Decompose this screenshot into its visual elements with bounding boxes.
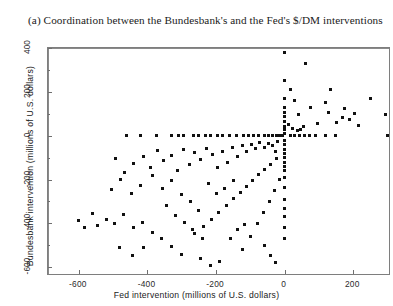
y-tick-mark: [48, 180, 52, 181]
data-point: [216, 134, 219, 137]
x-tick-label: 0: [281, 279, 286, 289]
data-point: [151, 174, 154, 177]
data-point: [283, 165, 286, 168]
data-point: [329, 88, 332, 91]
data-point: [287, 123, 290, 126]
data-point: [236, 228, 239, 231]
data-point: [197, 134, 200, 137]
data-point: [274, 261, 277, 264]
data-point: [142, 155, 145, 158]
data-point: [283, 148, 286, 151]
data-point: [96, 224, 99, 227]
data-point: [210, 218, 213, 221]
data-point: [283, 106, 286, 109]
data-point: [314, 134, 317, 137]
data-point: [236, 155, 239, 158]
x-tick-mark: [216, 270, 217, 274]
data-point: [91, 212, 94, 215]
data-point: [256, 222, 259, 225]
y-tick-mark: [48, 136, 52, 137]
data-point: [291, 127, 294, 130]
data-point: [201, 237, 204, 240]
data-point: [170, 179, 173, 182]
y-minor-tick-mark: [48, 158, 50, 159]
data-point: [105, 218, 108, 221]
zero-line-horizontal: [48, 48, 389, 49]
data-point: [273, 189, 276, 192]
data-point: [180, 193, 183, 196]
data-point: [223, 187, 226, 190]
data-point: [283, 226, 286, 229]
data-point: [239, 191, 242, 194]
data-point: [215, 192, 218, 195]
data-point: [289, 134, 292, 137]
data-point: [293, 134, 296, 137]
data-point: [113, 222, 116, 225]
x-tick-mark: [285, 270, 286, 274]
data-point: [303, 134, 306, 137]
data-point: [276, 140, 279, 143]
data-point: [283, 156, 286, 159]
data-point: [151, 231, 154, 234]
y-tick-mark: [48, 92, 52, 93]
data-point: [205, 147, 208, 150]
data-point: [384, 113, 387, 116]
x-tick-mark: [79, 270, 80, 274]
data-point: [132, 162, 135, 165]
data-point: [176, 169, 179, 172]
figure-panel: (a) Coordination between the Bundesbank'…: [0, 0, 393, 306]
data-point: [218, 260, 221, 263]
data-point: [343, 107, 346, 110]
data-point: [182, 134, 185, 137]
data-point: [242, 134, 245, 137]
data-point: [231, 146, 234, 149]
data-point: [299, 128, 302, 131]
data-point: [221, 134, 224, 137]
data-point: [258, 141, 261, 144]
data-point: [177, 134, 180, 137]
data-point: [283, 51, 286, 54]
data-point: [149, 166, 152, 169]
data-point: [283, 215, 286, 218]
data-point: [209, 264, 212, 267]
data-point: [267, 134, 270, 137]
data-point: [174, 214, 177, 217]
data-point: [165, 204, 168, 207]
x-tick-label: -600: [69, 279, 87, 289]
data-point: [304, 62, 307, 65]
data-point: [262, 211, 265, 214]
data-point: [211, 153, 214, 156]
data-point: [232, 197, 235, 200]
data-point: [170, 134, 173, 137]
data-point: [118, 246, 121, 249]
x-axis-title: Fed intervention (millions of U.S. dolla…: [0, 290, 393, 300]
data-point: [207, 182, 210, 185]
data-point: [162, 159, 165, 162]
data-point: [228, 134, 231, 137]
data-point: [274, 150, 277, 153]
data-point: [283, 176, 286, 179]
y-tick-mark: [48, 223, 52, 224]
data-point: [232, 179, 235, 182]
data-point: [324, 134, 327, 137]
data-point: [275, 157, 278, 160]
data-point: [283, 169, 286, 172]
y-tick-mark: [48, 267, 52, 268]
data-point: [235, 134, 238, 137]
data-point: [271, 134, 274, 137]
data-point: [263, 134, 266, 137]
data-point: [369, 97, 372, 100]
data-point: [257, 173, 260, 176]
data-point: [225, 204, 228, 207]
data-point: [217, 211, 220, 214]
data-point: [182, 148, 185, 151]
data-point: [125, 134, 128, 137]
data-point: [249, 235, 252, 238]
data-point: [309, 106, 312, 109]
data-point: [263, 244, 266, 247]
data-point: [308, 134, 311, 137]
x-tick-mark: [353, 270, 354, 274]
data-point: [297, 113, 300, 116]
data-point: [83, 226, 86, 229]
data-point: [269, 163, 272, 166]
